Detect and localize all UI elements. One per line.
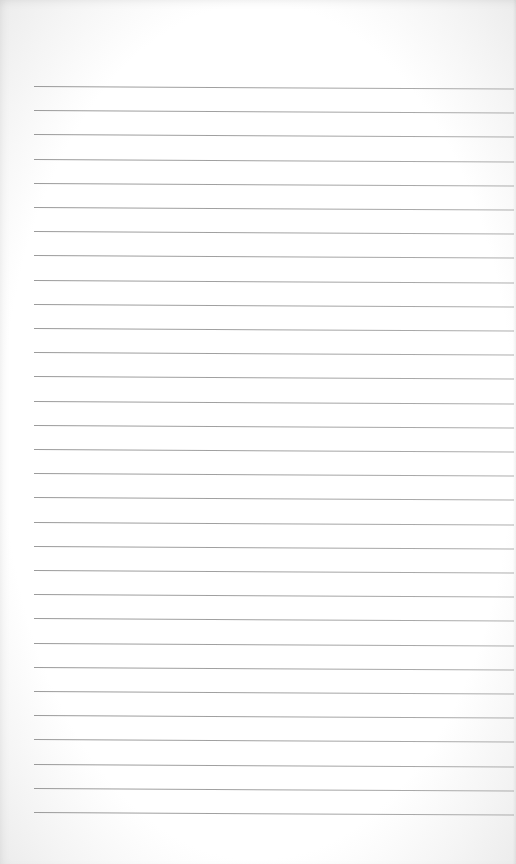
ruled-line <box>34 183 514 187</box>
ruled-line <box>34 207 514 211</box>
ruled-line <box>34 618 514 622</box>
ruled-line <box>34 352 514 356</box>
ruled-line <box>34 255 514 259</box>
ruled-line <box>34 522 514 526</box>
ruled-line <box>34 764 514 768</box>
ruled-line <box>34 812 514 816</box>
ruled-line <box>34 497 514 501</box>
ruled-line <box>34 594 514 598</box>
ruled-line <box>34 643 514 647</box>
ruled-line <box>34 546 514 550</box>
ruled-line <box>34 691 514 695</box>
ruled-line <box>34 715 514 719</box>
ruled-line <box>34 425 514 429</box>
ruled-line <box>34 110 514 114</box>
ruled-line <box>34 449 514 453</box>
ruled-line <box>34 134 514 138</box>
ruled-line <box>34 788 514 792</box>
ruled-line <box>34 86 514 90</box>
ruled-line <box>34 280 514 284</box>
ruled-line <box>34 401 514 405</box>
ruled-line <box>34 376 514 380</box>
ruled-line <box>34 570 514 574</box>
ruled-line <box>34 328 514 332</box>
ruled-line <box>34 159 514 163</box>
ruled-line <box>34 739 514 743</box>
ruled-line <box>34 231 514 235</box>
ruled-line <box>34 667 514 671</box>
lined-paper-page <box>0 0 516 864</box>
ruled-line <box>34 473 514 477</box>
ruled-line <box>34 304 514 308</box>
